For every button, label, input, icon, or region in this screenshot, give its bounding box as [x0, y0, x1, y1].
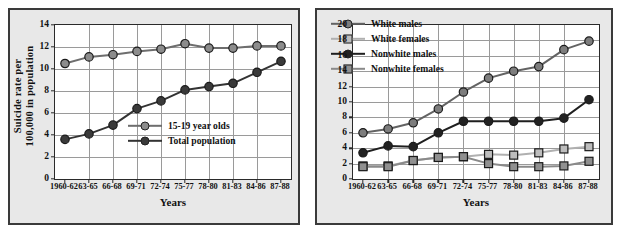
legend-item[interactable]: Nonwhite males [331, 46, 444, 61]
x-tick-label: 75-77 [478, 182, 498, 191]
data-point-marker [109, 51, 117, 59]
x-tick-label: 72-74 [150, 182, 170, 191]
data-point-marker [535, 163, 543, 171]
series-line [65, 44, 281, 64]
y-tick-label: 18 [326, 34, 347, 44]
y-tick-label: 14 [326, 65, 347, 75]
data-point-marker [560, 145, 568, 153]
x-tick-label: 78-80 [198, 182, 218, 191]
x-tick-label: 84-86 [246, 182, 266, 191]
data-point-marker [485, 150, 493, 158]
y-tick-label: 16 [326, 50, 347, 60]
legend-item[interactable]: 15-19 year olds [128, 118, 236, 133]
y-axis-title-line-1: Suicide rate per [12, 36, 24, 156]
x-tick-label: 1960-62 [50, 182, 78, 191]
series-layer [55, 25, 291, 179]
data-point-marker [459, 153, 467, 161]
data-point-marker [359, 149, 367, 157]
x-tick-label: 87-88 [270, 182, 290, 191]
y-tick-label: 0 [28, 173, 49, 183]
data-point-marker [485, 160, 493, 168]
y-tick-label: 6 [326, 127, 347, 137]
legend-label: Nonwhite males [371, 48, 436, 59]
data-point-marker [157, 45, 165, 53]
data-point-marker [61, 135, 69, 143]
x-tick-label: 66-68 [402, 182, 422, 191]
data-point-marker [459, 117, 467, 125]
data-point-marker [229, 79, 237, 87]
data-point-marker [85, 130, 93, 138]
data-point-marker [384, 163, 392, 171]
chart-panel-right: 1960-6263-6566-6869-7172-7475-7778-8081-… [315, 8, 613, 225]
series-line [363, 157, 589, 167]
y-tick-label: 12 [326, 81, 347, 91]
data-point-marker [560, 45, 568, 53]
data-point-marker [409, 119, 417, 127]
x-tick-label: 66-68 [102, 182, 122, 191]
x-tick-label: 75-77 [174, 182, 194, 191]
data-point-marker [133, 104, 141, 112]
y-tick-label: 8 [28, 85, 49, 95]
data-point-marker [560, 114, 568, 122]
data-point-marker [510, 163, 518, 171]
data-point-marker [181, 86, 189, 94]
data-point-marker [585, 143, 593, 151]
y-tick-label: 6 [28, 107, 49, 117]
legend-left: 15-19 year oldsTotal population [128, 118, 236, 148]
data-point-marker [535, 117, 543, 125]
legend-label: White males [371, 18, 422, 29]
legend-item[interactable]: Total population [128, 133, 236, 148]
data-point-marker [409, 142, 417, 150]
legend-marker-circle-icon [128, 135, 162, 147]
plot-area-left [54, 24, 292, 180]
y-tick-label: 0 [326, 173, 347, 183]
data-point-marker [434, 129, 442, 137]
figure-container: Suicide rate per 100,000 in population 1… [0, 0, 621, 233]
legend-marker-circle-icon [128, 120, 162, 132]
y-tick-label: 8 [326, 111, 347, 121]
x-tick-label: 69-71 [126, 182, 146, 191]
data-point-marker [560, 162, 568, 170]
legend-label: Nonwhite females [371, 63, 444, 74]
data-point-marker [484, 117, 492, 125]
data-point-marker [277, 42, 285, 50]
data-point-marker [277, 57, 285, 65]
x-tick-label: 81-83 [528, 182, 548, 191]
data-point-marker [157, 97, 165, 105]
legend-item[interactable]: Nonwhite females [331, 61, 444, 76]
data-point-marker [205, 82, 213, 90]
x-axis-title-right: Years [352, 196, 600, 208]
y-tick-label: 12 [28, 41, 49, 51]
legend-item[interactable]: White males [331, 16, 444, 31]
data-point-marker [535, 149, 543, 157]
x-tick-label: 72-74 [453, 182, 473, 191]
data-point-marker [409, 157, 417, 165]
data-point-marker [253, 42, 261, 50]
y-tick-label: 4 [326, 142, 347, 152]
legend-right: White malesWhite femalesNonwhite malesNo… [331, 16, 444, 76]
x-tick-label: 63-65 [377, 182, 397, 191]
x-tick-label: 78-80 [503, 182, 523, 191]
data-point-marker [509, 67, 517, 75]
data-point-marker [484, 74, 492, 82]
series-line [363, 147, 589, 166]
data-point-marker [109, 121, 117, 129]
y-tick-label: 2 [28, 151, 49, 161]
x-tick-label: 1960-62 [348, 182, 376, 191]
legend-label: White females [371, 33, 429, 44]
data-point-marker [133, 47, 141, 55]
y-tick-label: 2 [326, 158, 347, 168]
data-point-marker [510, 151, 518, 159]
legend-item[interactable]: White females [331, 31, 444, 46]
y-tick-label: 10 [28, 63, 49, 73]
y-tick-label: 14 [28, 19, 49, 29]
data-point-marker [85, 53, 93, 61]
data-point-marker [585, 95, 593, 103]
x-tick-label: 81-83 [222, 182, 242, 191]
legend-label: Total population [168, 135, 236, 146]
y-tick-label: 20 [326, 19, 347, 29]
x-tick-label: 87-88 [578, 182, 598, 191]
data-point-marker [384, 142, 392, 150]
data-point-marker [205, 44, 213, 52]
data-point-marker [459, 88, 467, 96]
